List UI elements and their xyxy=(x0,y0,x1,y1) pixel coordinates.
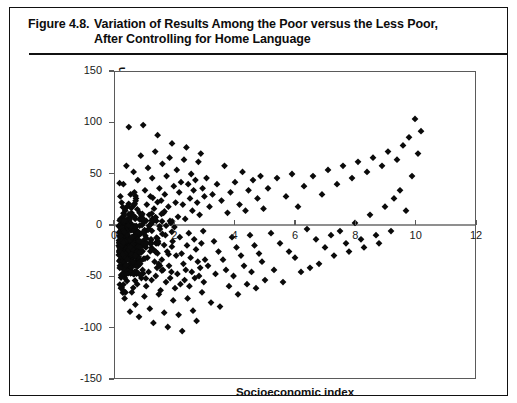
scatter-point xyxy=(190,307,197,314)
scatter-point xyxy=(242,207,249,214)
scatter-point xyxy=(130,169,137,176)
scatter-point xyxy=(301,183,308,190)
y-tick-label: -50 xyxy=(62,269,102,281)
scatter-point xyxy=(136,313,143,320)
scatter-point xyxy=(253,285,260,292)
scatter-point xyxy=(295,203,302,210)
scatter-point xyxy=(196,211,203,218)
figure-title-line2: After Controlling for Home Language xyxy=(94,32,311,46)
scatter-point xyxy=(235,291,242,298)
scatter-point xyxy=(137,152,144,159)
scatter-point xyxy=(193,246,200,253)
x-tick-label: 6 xyxy=(283,229,307,241)
scatter-point xyxy=(191,236,198,243)
scatter-point xyxy=(248,269,255,276)
scatter-point xyxy=(194,199,201,206)
scatter-point xyxy=(247,232,254,239)
scatter-point xyxy=(154,132,161,139)
scatter-point xyxy=(215,248,222,255)
y-tick-mark xyxy=(109,122,114,123)
scatter-point xyxy=(379,162,386,169)
scatter-point xyxy=(168,243,175,250)
scatter-point xyxy=(316,260,323,267)
scatter-point xyxy=(283,193,290,200)
scatter-point xyxy=(233,244,240,251)
y-tick-label: -100 xyxy=(62,321,102,333)
scatter-point xyxy=(238,252,245,259)
scatter-point xyxy=(230,273,237,280)
x-tick-mark xyxy=(234,220,235,225)
scatter-point xyxy=(167,275,174,282)
scatter-point xyxy=(172,285,179,292)
scatter-point xyxy=(206,203,213,210)
scatter-point xyxy=(189,207,196,214)
x-tick-mark xyxy=(415,220,416,225)
title-divider xyxy=(29,53,507,55)
y-tick-mark xyxy=(109,173,114,174)
scatter-point xyxy=(152,148,159,155)
figure-title-line1: Variation of Results Among the Poor vers… xyxy=(94,17,438,31)
x-tick-mark xyxy=(174,220,175,225)
scatter-point xyxy=(211,238,218,245)
scatter-point xyxy=(150,320,157,327)
scatter-point xyxy=(148,277,155,284)
y-tick-mark xyxy=(109,327,114,328)
scatter-point xyxy=(244,281,251,288)
scatter-point xyxy=(184,295,191,302)
scatter-point xyxy=(202,256,209,263)
scatter-point xyxy=(192,177,199,184)
scatter-point xyxy=(271,267,278,274)
scatter-point xyxy=(241,262,248,269)
scatter-point xyxy=(166,154,173,161)
scatter-point xyxy=(185,230,192,237)
scatter-point xyxy=(406,134,413,141)
scatter-point xyxy=(188,269,195,276)
scatter-point xyxy=(226,283,233,290)
scatter-point xyxy=(334,181,341,188)
scatter-point xyxy=(217,303,224,310)
scatter-point xyxy=(143,283,150,290)
y-tick-mark xyxy=(109,378,114,379)
figure-title: Figure 4.8.Variation of Results Among th… xyxy=(28,17,488,47)
scatter-point xyxy=(184,242,191,249)
scatter-point xyxy=(232,179,239,186)
scatter-point xyxy=(149,175,156,182)
scatter-point xyxy=(161,191,168,198)
scatter-point xyxy=(125,124,132,131)
scatter-point xyxy=(121,295,128,302)
scatter-point xyxy=(123,162,130,169)
scatter-point xyxy=(355,158,362,165)
y-tick-label: 50 xyxy=(62,167,102,179)
scatter-point xyxy=(403,207,410,214)
scatter-point xyxy=(346,248,353,255)
scatter-point xyxy=(164,324,171,331)
scatter-point xyxy=(364,169,371,176)
scatter-point xyxy=(265,185,272,192)
scatter-point xyxy=(187,195,194,202)
scatter-point xyxy=(161,242,168,249)
scatter-point xyxy=(166,262,173,269)
scatter-point xyxy=(218,197,225,204)
scatter-point xyxy=(134,177,141,184)
scatter-point xyxy=(170,297,177,304)
scatter-point xyxy=(209,191,216,198)
scatter-point xyxy=(415,150,422,157)
scatter-point xyxy=(340,162,347,169)
scatter-point xyxy=(165,203,172,210)
scatter-point xyxy=(298,269,305,276)
scatter-point xyxy=(221,162,228,169)
scatter-point xyxy=(313,236,320,243)
scatter-point xyxy=(194,258,201,265)
scatter-point xyxy=(175,213,182,220)
scatter-point xyxy=(388,228,395,235)
x-tick-mark xyxy=(113,220,114,225)
scatter-point xyxy=(239,169,246,176)
scatter-point xyxy=(201,193,208,200)
scatter-point xyxy=(188,171,195,178)
scatter-point xyxy=(179,201,186,208)
scatter-point xyxy=(197,264,204,271)
scatter-point xyxy=(163,173,170,180)
scatter-point xyxy=(181,277,188,284)
scatter-point xyxy=(280,279,287,286)
scatter-point xyxy=(245,187,252,194)
